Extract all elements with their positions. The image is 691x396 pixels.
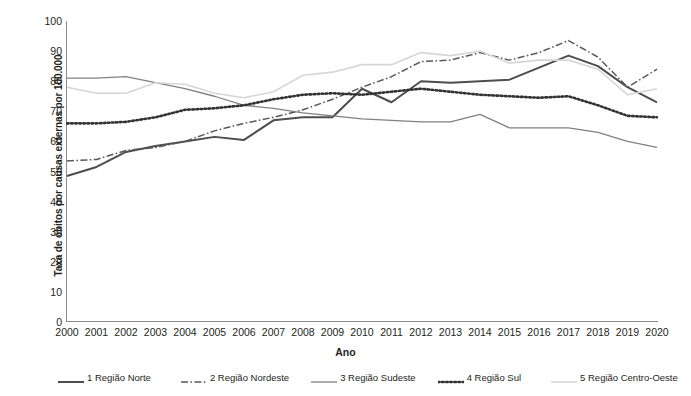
x-axis-title: Ano bbox=[0, 346, 691, 358]
legend-item-4[interactable]: 4 Região Sul bbox=[438, 373, 521, 383]
legend-swatch-icon bbox=[311, 373, 337, 383]
legend-item-1[interactable]: 1 Região Norte bbox=[58, 373, 151, 383]
series-line-2 bbox=[67, 41, 657, 161]
legend-item-2[interactable]: 2 Região Nordeste bbox=[181, 373, 289, 383]
y-tick-label: 60 bbox=[30, 136, 62, 146]
legend-label: 2 Região Nordeste bbox=[210, 373, 289, 383]
legend-label: 4 Região Sul bbox=[467, 373, 521, 383]
x-tick-label: 2020 bbox=[637, 326, 677, 338]
y-tick-label: 90 bbox=[30, 46, 62, 56]
y-tick-label: 80 bbox=[30, 76, 62, 86]
y-tick-label: 70 bbox=[30, 106, 62, 116]
series-line-4 bbox=[67, 89, 657, 124]
series-line-1 bbox=[67, 56, 657, 176]
legend-label: 3 Região Sudeste bbox=[340, 373, 416, 383]
y-tick-label: 100 bbox=[30, 16, 62, 26]
legend-swatch-icon bbox=[181, 373, 207, 383]
legend-item-3[interactable]: 3 Região Sudeste bbox=[311, 373, 416, 383]
y-tick-label: 40 bbox=[30, 197, 62, 207]
chart-figure: Taxa de óbitos por causas externas por 1… bbox=[0, 0, 691, 396]
chart-legend: 1 Região Norte2 Região Nordeste3 Região … bbox=[58, 370, 658, 386]
legend-swatch-icon bbox=[551, 373, 577, 383]
y-tick-label: 30 bbox=[30, 227, 62, 237]
cropped-caption-sliver bbox=[0, 388, 691, 396]
legend-item-5[interactable]: 5 Região Centro-Oeste bbox=[551, 373, 678, 383]
plot-area bbox=[66, 21, 658, 322]
legend-swatch-icon bbox=[58, 373, 84, 383]
y-tick-label: 50 bbox=[30, 167, 62, 177]
legend-label: 1 Região Norte bbox=[87, 373, 151, 383]
legend-label: 5 Região Centro-Oeste bbox=[580, 373, 678, 383]
y-tick-label: 20 bbox=[30, 257, 62, 267]
legend-swatch-icon bbox=[438, 373, 464, 383]
x-axis-tick-labels: 2000200120022003200420052006200720082009… bbox=[66, 326, 658, 342]
y-tick-label: 10 bbox=[30, 287, 62, 297]
series-line-5 bbox=[67, 51, 657, 98]
